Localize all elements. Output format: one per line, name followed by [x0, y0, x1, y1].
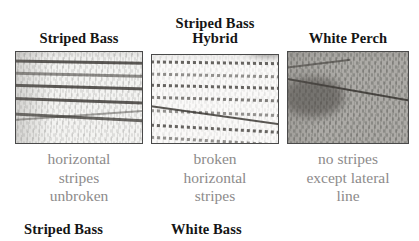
panel-caption-striped-bass: horizontal stripes unbroken	[8, 150, 150, 206]
panel-title-striped-bass: Striped Bass	[8, 31, 150, 46]
photo-white-perch-scales	[287, 51, 409, 144]
scale-texture-layer	[15, 51, 143, 144]
panel-title-wrap-striped-bass-hybrid: Striped Bass Hybrid	[145, 0, 285, 48]
panel-caption-white-perch: no stripes except lateral line	[281, 150, 415, 206]
panel-title-white-perch: White Perch	[281, 31, 415, 46]
photo-top-shadow	[15, 51, 143, 60]
photo-left-shadow	[15, 51, 52, 144]
bottom-label-white-bass: White Bass	[171, 221, 242, 237]
panel-white-perch: White Perch no stripes except lateral li…	[281, 0, 415, 205]
scale-texture-layer	[287, 51, 409, 144]
panel-title-wrap-striped-bass: Striped Bass	[8, 0, 150, 48]
panel-title-striped-bass-hybrid: Striped Bass Hybrid	[145, 16, 285, 46]
photo-top-shadow	[287, 51, 409, 60]
panel-caption-striped-bass-hybrid: broken horizontal stripes	[145, 150, 285, 206]
fish-identification-figure: Striped Bass horizontal stripes unbroken	[0, 0, 419, 241]
bottom-label-striped-bass: Striped Bass	[24, 221, 103, 237]
photo-striped-bass-hybrid-scales	[151, 54, 279, 144]
photo-left-shadow	[287, 51, 322, 144]
scale-texture-layer	[151, 54, 279, 144]
panel-striped-bass: Striped Bass horizontal stripes unbroken	[8, 0, 150, 205]
panel-striped-bass-hybrid: Striped Bass Hybrid broken horizontal st…	[145, 0, 285, 205]
photo-striped-bass-scales	[15, 51, 143, 144]
panel-title-wrap-white-perch: White Perch	[281, 0, 415, 48]
